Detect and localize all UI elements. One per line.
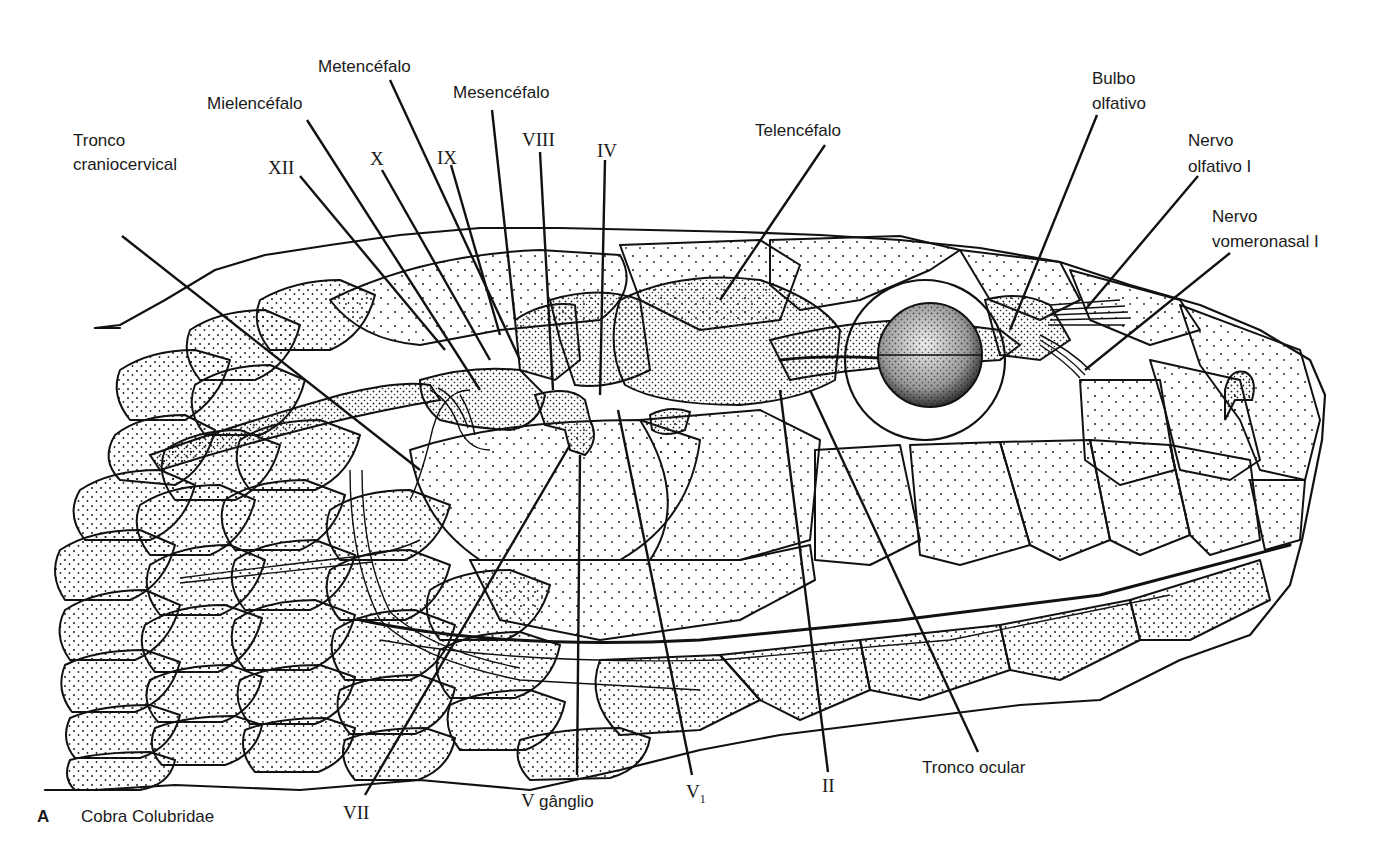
label-bulbo-olfativo-2: olfativo	[1092, 94, 1146, 113]
label-tronco-craniocervical-2: craniocervical	[73, 155, 177, 174]
label-tronco-ocular: Tronco ocular	[922, 758, 1026, 777]
label-tronco-craniocervical-1: Tronco	[73, 131, 125, 150]
neck-scale	[238, 665, 355, 724]
label-v-ganglio-prefix: V	[521, 790, 535, 811]
label-nerve-v1-main: V	[686, 781, 700, 802]
label-nerve-x: X	[370, 148, 384, 169]
mielencefalo-region	[420, 369, 545, 430]
label-nerve-viii: VIII	[522, 129, 555, 150]
label-nerve-iv: IV	[597, 140, 617, 161]
label-nervo-olfativo-1: Nervo	[1188, 131, 1233, 150]
label-nerve-xii: XII	[268, 157, 294, 178]
pituitary-region	[650, 409, 690, 434]
label-nervo-olfativo-2: olfativo I	[1188, 157, 1251, 176]
neck-scale	[338, 675, 455, 734]
label-nerve-v1: V1	[686, 781, 706, 806]
label-nervo-vomeronasal-2: vomeronasal I	[1212, 232, 1319, 251]
label-v-ganglio: gânglio	[539, 792, 594, 811]
label-nerve-ii: II	[822, 775, 835, 796]
neck-scale	[243, 718, 355, 772]
infralabial-scale	[1130, 560, 1270, 640]
label-mielencefalo: Mielencéfalo	[207, 94, 302, 113]
snake-head-illustration	[45, 228, 1325, 790]
label-mesencefalo: Mesencéfalo	[453, 83, 549, 102]
infralabial-scale	[1000, 600, 1140, 680]
label-metencefalo: Metencéfalo	[318, 57, 411, 76]
figure-caption: Cobra Colubridae	[81, 807, 214, 826]
label-nerve-vii: VII	[343, 802, 369, 823]
label-nerve-ix: IX	[437, 147, 457, 168]
label-nervo-vomeronasal-1: Nervo	[1212, 207, 1257, 226]
infralabial-scale	[860, 625, 1010, 700]
label-telencefalo: Telencéfalo	[755, 121, 841, 140]
snake-head-anatomy-figure: Tronco craniocervical Mielencéfalo Meten…	[0, 0, 1391, 865]
supralabial-scale	[815, 445, 920, 565]
panel-letter: A	[37, 807, 49, 826]
label-nerve-v1-sub: 1	[700, 792, 706, 806]
neck-scale	[518, 728, 650, 780]
label-bulbo-olfativo-1: Bulbo	[1092, 69, 1135, 88]
